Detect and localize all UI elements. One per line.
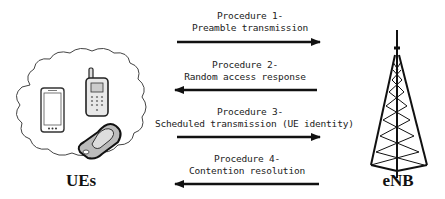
procedure-1-label: Procedure 1- Preamble transmission <box>175 10 325 34</box>
procedure-1-description: Preamble transmission <box>175 22 325 34</box>
procedure-2-description: Random access response <box>170 71 320 83</box>
feature-phone-icon <box>86 68 108 116</box>
procedure-3-description: Scheduled transmission (UE identity) <box>155 118 345 130</box>
cell-tower-icon <box>371 30 427 178</box>
ue-cloud-icon <box>16 48 146 155</box>
procedure-4-label: Procedure 4- Contention resolution <box>172 153 322 177</box>
ue-node-label: UEs <box>56 171 106 191</box>
enb-node-label: eNB <box>373 171 423 191</box>
smartphone-icon <box>41 88 64 132</box>
procedure-2-label: Procedure 2- Random access response <box>170 59 320 83</box>
random-access-diagram: Procedure 1- Preamble transmission Proce… <box>0 0 445 199</box>
procedure-2-title: Procedure 2- <box>170 59 320 71</box>
flip-phone-icon <box>79 124 121 159</box>
procedure-3-label: Procedure 3- Scheduled transmission (UE … <box>155 106 345 130</box>
procedure-4-title: Procedure 4- <box>172 153 322 165</box>
procedure-3-title: Procedure 3- <box>155 106 345 118</box>
procedure-4-description: Contention resolution <box>172 165 322 177</box>
procedure-1-title: Procedure 1- <box>175 10 325 22</box>
